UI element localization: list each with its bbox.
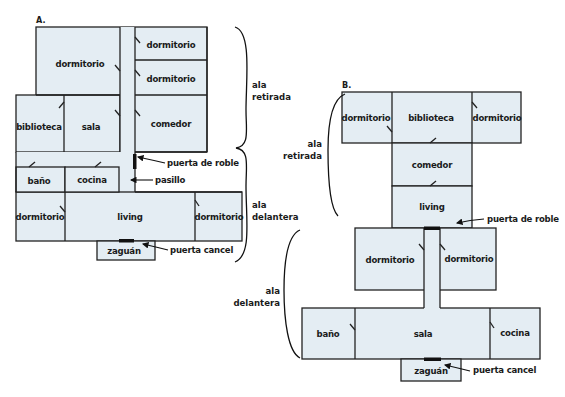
plan-b-label-puerta-cancel: puerta cancel	[473, 364, 536, 375]
plan-a-room-sala: sala	[82, 121, 101, 132]
plan-a-cancel-door	[119, 239, 134, 243]
wing-label-line: delantera	[228, 297, 280, 309]
plan-b-room-dormitorio-mid-left: dormitorio	[365, 254, 414, 265]
plan-b-room-cocina: cocina	[500, 327, 530, 338]
plan-a-room-living: living	[117, 211, 142, 222]
plan-b-room-sala: sala	[414, 328, 433, 339]
plan-a-label-puerta-cancel: puerta cancel	[170, 244, 233, 255]
plan-a-oak-door	[133, 154, 137, 169]
plan-a-room-zaguan: zaguán	[107, 245, 141, 256]
plan-a	[16, 27, 242, 260]
plan-a-room-dormitorio-bottom-left: dormitorio	[15, 211, 64, 222]
plan-a-room-comedor: comedor	[151, 118, 191, 129]
plan-b-room-bano: baño	[316, 328, 339, 339]
plan-a-wing-retirada: ala retirada	[252, 79, 291, 103]
plan-b-room-biblioteca: biblioteca	[408, 112, 454, 123]
wing-label-line: retirada	[276, 150, 322, 162]
plan-a-letter: A.	[36, 15, 46, 25]
plan-b-room-living: living	[419, 201, 444, 212]
plan-a-room-dormitorio-top-right-2: dormitorio	[146, 73, 195, 84]
plan-b-cancel-door	[424, 358, 441, 362]
plan-b-room-zaguan: zaguán	[414, 365, 448, 376]
wing-label-line: retirada	[252, 91, 291, 103]
plan-b-room-dormitorio-mid-right: dormitorio	[444, 253, 493, 264]
plan-a-room-dormitorio-bottom-right: dormitorio	[194, 211, 243, 222]
plan-a-label-puerta-de-roble: puerta de roble	[167, 157, 239, 168]
plan-a-room-cocina: cocina	[77, 174, 107, 185]
wing-label-line: ala	[276, 138, 322, 150]
plan-a-room-biblioteca: biblioteca	[16, 121, 62, 132]
plan-b-label-puerta-de-roble: puerta de roble	[487, 213, 559, 224]
plan-b-letter: B.	[342, 80, 351, 90]
plan-b-oak-door	[424, 227, 440, 231]
plan-a-room-bano: baño	[27, 175, 50, 186]
plan-b-room-dormitorio-top-left: dormitorio	[341, 112, 390, 123]
wing-label-line: ala	[252, 199, 299, 211]
plan-a-room-dormitorio-top-left: dormitorio	[55, 58, 104, 69]
wing-label-line: ala	[228, 285, 280, 297]
plan-b-wing-delantera: ala delantera	[228, 285, 280, 309]
plan-b-room-dormitorio-top-right: dormitorio	[472, 112, 521, 123]
plan-b-room-comedor: comedor	[412, 159, 452, 170]
wing-label-line: ala	[252, 79, 291, 91]
plan-a-label-pasillo: pasillo	[155, 174, 185, 185]
plan-a-wing-delantera: ala delantera	[252, 199, 299, 223]
wing-label-line: delantera	[252, 211, 299, 223]
floor-plans-figure: A. dormitorio dormitorio dormitorio bibl…	[0, 0, 565, 397]
plan-a-room-dormitorio-top-right-1: dormitorio	[146, 39, 195, 50]
plan-b-wing-retirada: ala retirada	[276, 138, 322, 162]
